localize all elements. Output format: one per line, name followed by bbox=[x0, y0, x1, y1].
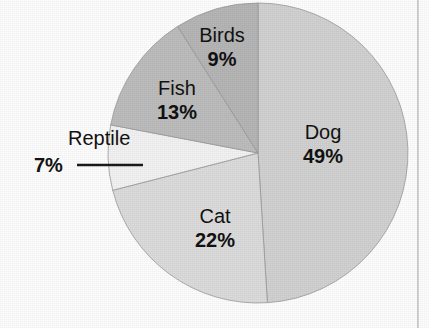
pie-label-reptile-value: 7% bbox=[34, 154, 63, 176]
pie-label-dog-value: 49% bbox=[303, 145, 343, 167]
page-edge-rule bbox=[417, 0, 419, 328]
pie-label-cat-name: Cat bbox=[199, 205, 231, 227]
pie-chart-figure: Dog 49% Cat 22% Reptile 7% Fish 13% Bird… bbox=[0, 0, 429, 328]
pie-chart-svg: Dog 49% Cat 22% Reptile 7% Fish 13% Bird… bbox=[0, 0, 429, 328]
pie-label-fish-value: 13% bbox=[157, 101, 197, 123]
pie-label-birds-value: 9% bbox=[208, 48, 237, 70]
pie-label-reptile-name: Reptile bbox=[68, 127, 130, 149]
pie-label-dog-name: Dog bbox=[305, 121, 342, 143]
pie-label-cat-value: 22% bbox=[195, 229, 235, 251]
pie-label-birds-name: Birds bbox=[199, 24, 245, 46]
pie-label-fish-name: Fish bbox=[158, 77, 196, 99]
pie-slices bbox=[108, 3, 408, 303]
